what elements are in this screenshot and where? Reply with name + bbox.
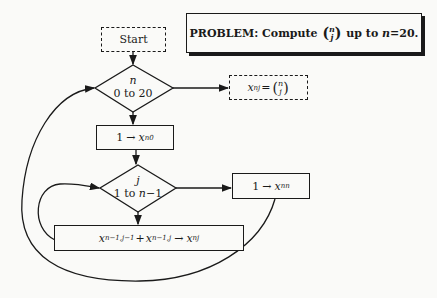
loop-j-label: j 1 to n−1 (103, 174, 173, 200)
assign-arrow-icon: → (262, 180, 271, 193)
output-eq: = (261, 81, 270, 94)
start-label: Start (119, 33, 147, 46)
term1-sub: n−1,j−1 (105, 234, 135, 242)
loop-j-range-start: 1 to (114, 187, 139, 200)
init-value: 1 (116, 131, 123, 144)
set-sub: nn (281, 182, 290, 190)
output-terminal: xnj = (nj) (229, 75, 308, 100)
problem-prefix: PROBLEM: (190, 27, 259, 40)
loop-j-range-var: n (139, 187, 146, 200)
problem-limit: =20. (390, 27, 418, 40)
target-sub: nj (193, 234, 200, 242)
loop-n-label: n 0 to 20 (103, 74, 163, 100)
output-sub: nj (254, 84, 261, 92)
set-value: 1 (252, 180, 259, 193)
problem-statement-box: PROBLEM: Compute (nj) up to n=20. (186, 13, 422, 53)
output-binomial: (nj) (273, 80, 289, 96)
problem-var: n (382, 27, 390, 40)
init-xn0-box: 1 → xn0 (96, 125, 174, 150)
loop-n-var: n (129, 74, 136, 87)
loop-j-var: j (136, 174, 139, 187)
problem-text: Compute (262, 27, 318, 40)
set-xnn-box: 1 → xnn (232, 173, 310, 199)
loop-n-range: 0 to 20 (113, 87, 152, 100)
problem-suffix: up to (346, 27, 378, 40)
term2-sub: n−1,j (152, 234, 171, 242)
init-sub: n0 (145, 134, 154, 142)
plus-sign: + (135, 232, 144, 245)
assign-arrow-icon: → (126, 131, 135, 144)
assign-arrow-icon: → (174, 232, 183, 245)
start-terminal: Start (101, 27, 166, 52)
loop-j-range-end: −1 (146, 187, 162, 200)
binomial-n-j: (nj) (322, 25, 341, 41)
recurrence-box: xn−1,j−1 + xn−1,j → xnj (54, 225, 244, 251)
